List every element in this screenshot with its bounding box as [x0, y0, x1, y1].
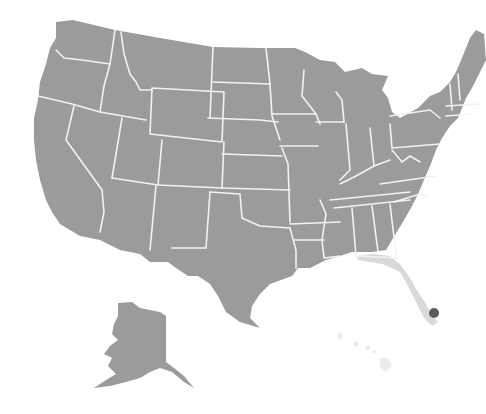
alaska — [94, 302, 194, 388]
hawaii — [337, 333, 392, 372]
florida[interactable] — [356, 254, 438, 326]
location-marker[interactable] — [429, 308, 439, 318]
us-map — [0, 0, 486, 414]
contiguous-us — [34, 20, 486, 328]
